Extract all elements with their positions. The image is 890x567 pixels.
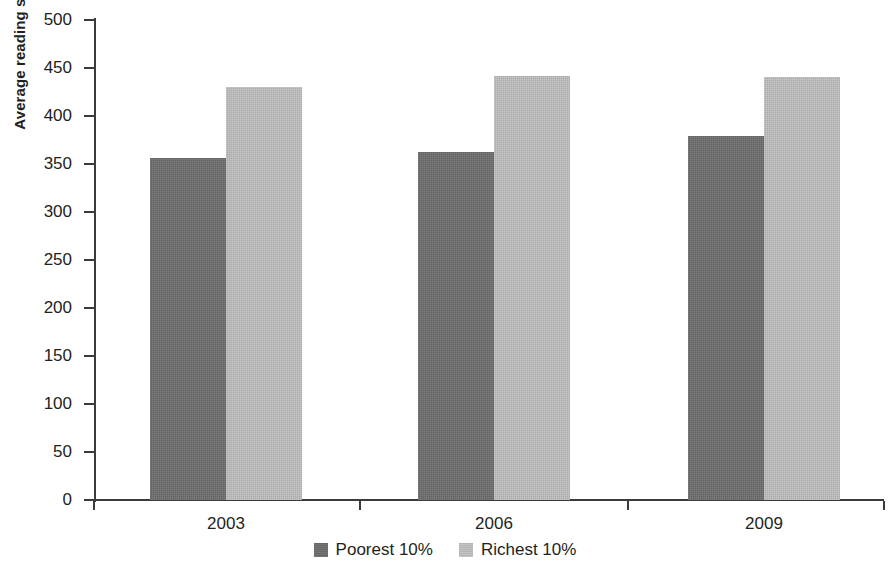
y-axis-line [94,18,96,502]
legend-label: Richest 10% [481,540,576,559]
y-axis-tick [84,19,94,21]
y-axis-tick [84,67,94,69]
y-axis-tick [84,163,94,165]
y-axis-tick [84,451,94,453]
bar-2003-poorest-10 [150,158,226,500]
y-axis-tick-label: 200 [12,299,72,316]
y-axis-tick-label: 50 [12,443,72,460]
x-axis-category-label: 2006 [424,512,564,536]
x-axis-tick [93,501,95,510]
y-axis-tick-label: 450 [12,59,72,76]
y-axis-tick-label: 500 [12,11,72,28]
y-axis-tick-label: 150 [12,347,72,364]
y-axis-tick [84,211,94,213]
bar-2003-richest-10 [226,87,302,500]
x-axis-category-label: 2003 [156,512,296,536]
y-axis-tick-label: 250 [12,251,72,268]
y-axis-tick-label: 400 [12,107,72,124]
bar-2006-richest-10 [494,76,570,500]
y-axis-tick-label: 0 [12,491,72,508]
bar-2006-poorest-10 [418,152,494,500]
y-axis-tick [84,115,94,117]
legend-swatch-icon [459,543,473,557]
x-axis-tick [627,501,629,510]
y-axis-tick [84,259,94,261]
legend-entry-poorest-10[interactable]: Poorest 10% [314,540,433,559]
y-axis-tick-label: 350 [12,155,72,172]
x-axis-tick [883,501,885,510]
y-axis-tick-label: 300 [12,203,72,220]
bar-chart: Average reading score 050100150200250300… [0,0,890,567]
y-axis-tick [84,307,94,309]
legend-label: Poorest 10% [336,540,433,559]
bar-2009-poorest-10 [688,136,764,500]
x-axis-category-label: 2009 [694,512,834,536]
chart-legend: Poorest 10%Richest 10% [0,540,890,559]
bar-2009-richest-10 [764,77,840,500]
y-axis-tick [84,403,94,405]
legend-entry-richest-10[interactable]: Richest 10% [459,540,576,559]
legend-swatch-icon [314,543,328,557]
y-axis-tick-label: 100 [12,395,72,412]
x-axis-tick [359,501,361,510]
y-axis-tick [84,355,94,357]
